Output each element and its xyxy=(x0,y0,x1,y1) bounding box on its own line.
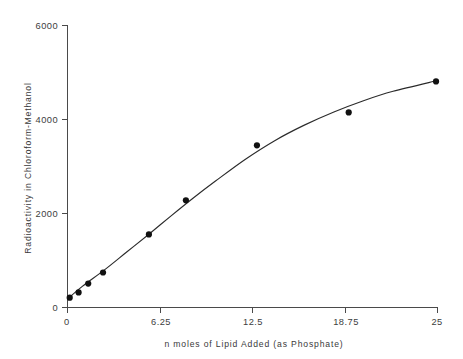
data-point xyxy=(146,231,152,237)
y-axis-tick-labels: 6000 4000 2000 0 xyxy=(36,21,58,313)
chart-figure: 6000 4000 2000 0 0 6.25 12.5 18.75 25 n … xyxy=(0,0,463,359)
data-point xyxy=(254,142,260,148)
y-tick-label-4000: 4000 xyxy=(36,115,58,125)
x-tick-label-0: 0 xyxy=(64,317,69,327)
x-axis-tick-labels: 0 6.25 12.5 18.75 25 xyxy=(64,317,443,327)
data-point xyxy=(433,78,439,84)
x-tick-label-12-5: 12.5 xyxy=(243,317,263,327)
data-point xyxy=(67,295,73,301)
data-point xyxy=(100,269,106,275)
data-point xyxy=(346,109,352,115)
y-tick-label-6000: 6000 xyxy=(36,21,58,31)
data-point xyxy=(76,289,82,295)
scatter-plot-canvas: 6000 4000 2000 0 0 6.25 12.5 18.75 25 n … xyxy=(0,0,463,359)
x-axis-title: n moles of Lipid Added (as Phosphate) xyxy=(164,339,343,349)
x-tick-label-18-75: 18.75 xyxy=(333,317,359,327)
x-axis-ticks xyxy=(68,308,438,314)
data-point xyxy=(183,197,189,203)
x-tick-label-25: 25 xyxy=(431,317,442,327)
data-point-markers xyxy=(67,78,440,300)
fitted-curve xyxy=(68,80,438,299)
y-tick-label-2000: 2000 xyxy=(36,209,58,219)
y-axis-title: Radioactivity in Chloroform-Methanol xyxy=(23,82,33,254)
y-axis-ticks xyxy=(62,26,68,308)
data-point xyxy=(85,280,91,286)
x-tick-label-6-25: 6.25 xyxy=(151,317,171,327)
axes-group xyxy=(68,25,438,308)
y-tick-label-0: 0 xyxy=(52,303,58,313)
